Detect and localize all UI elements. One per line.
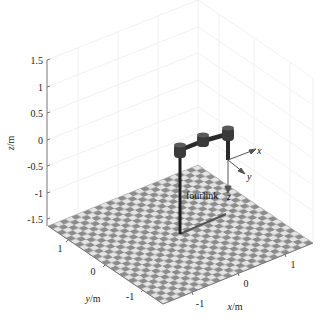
z-tick: 1 bbox=[38, 82, 43, 93]
x-axis-label: x/m bbox=[226, 301, 242, 312]
y-axis-label: y/m bbox=[84, 293, 100, 304]
z-axis bbox=[47, 59, 50, 226]
z-tick: -1 bbox=[35, 188, 43, 199]
joint-3 bbox=[222, 126, 234, 142]
frame-y-label: y bbox=[246, 171, 252, 182]
frame-x-label: x bbox=[256, 145, 262, 156]
z-tick: 0 bbox=[38, 135, 43, 146]
y-tick: 0 bbox=[91, 266, 96, 277]
z-axis-label: z/m bbox=[5, 136, 16, 152]
z-tick-labels: 1.5 1 0.5 0 -0.5 -1 -1.5 bbox=[27, 55, 43, 225]
frame-z-label: z bbox=[226, 191, 231, 202]
plot-canvas: 1.5 1 0.5 0 -0.5 -1 -1.5 z/m 1 0 -1 y/m … bbox=[0, 0, 326, 326]
arrowhead-icon bbox=[249, 149, 256, 154]
x-tick: -1 bbox=[196, 298, 204, 309]
robot-plot-figure: 1.5 1 0.5 0 -0.5 -1 -1.5 z/m 1 0 -1 y/m … bbox=[0, 0, 326, 326]
x-tick: 1 bbox=[291, 259, 296, 270]
z-tick: 0.5 bbox=[31, 108, 44, 119]
joint-2 bbox=[197, 133, 209, 148]
z-tick: -1.5 bbox=[27, 214, 43, 225]
y-tick: 1 bbox=[58, 243, 63, 254]
joint-1 bbox=[174, 143, 186, 159]
x-tick: 0 bbox=[244, 278, 249, 289]
svg-text:z/m: z/m bbox=[5, 136, 16, 152]
z-tick: 1.5 bbox=[31, 55, 44, 66]
robot-name-label: fourlink bbox=[186, 190, 218, 201]
y-tick: -1 bbox=[126, 291, 134, 302]
z-tick: -0.5 bbox=[27, 161, 43, 172]
